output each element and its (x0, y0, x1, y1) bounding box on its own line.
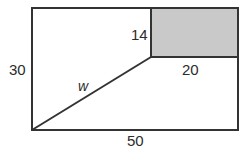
geometry-figure: 30 50 14 20 w (0, 0, 249, 155)
dimension-label-inner-base: 20 (182, 62, 199, 77)
diagonal-segment-w (32, 57, 151, 130)
dimension-label-diagonal: w (78, 79, 88, 94)
figure-canvas (0, 0, 249, 155)
dimension-label-inner-height: 14 (131, 27, 148, 42)
dimension-label-bottom-base: 50 (127, 133, 144, 148)
shaded-rectangle (151, 8, 238, 57)
dimension-label-left-height: 30 (9, 62, 26, 77)
